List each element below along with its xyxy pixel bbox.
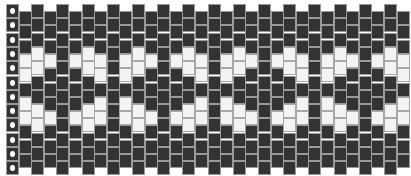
bead-dark bbox=[233, 76, 246, 90]
bead-dark bbox=[56, 118, 69, 132]
bead-dark bbox=[220, 83, 233, 97]
bead-dark bbox=[195, 154, 208, 168]
bead-dark bbox=[233, 4, 246, 18]
bead-dark bbox=[44, 140, 57, 154]
bead-dark bbox=[384, 147, 397, 161]
bead-light bbox=[334, 118, 347, 132]
bead-light bbox=[145, 54, 158, 68]
row-marker-dot bbox=[6, 4, 19, 18]
bead-dark bbox=[157, 61, 170, 75]
bead-dark bbox=[208, 133, 221, 147]
bead-pattern-grid bbox=[0, 0, 411, 176]
bead-dark bbox=[132, 90, 145, 104]
bead-dark bbox=[371, 25, 384, 39]
bead-dark bbox=[69, 125, 82, 139]
bead-dark bbox=[182, 133, 195, 147]
bead-dark bbox=[397, 154, 410, 168]
bead-dark bbox=[220, 140, 233, 154]
bead-dark bbox=[69, 25, 82, 39]
bead-dark bbox=[321, 25, 334, 39]
bead-dark bbox=[258, 118, 271, 132]
bead-light bbox=[132, 104, 145, 118]
bead-dark bbox=[182, 90, 195, 104]
bead-dark bbox=[346, 11, 359, 25]
bead-dark bbox=[31, 76, 44, 90]
row-marker-dot bbox=[6, 161, 19, 175]
bead-dark bbox=[132, 161, 145, 175]
bead-dark bbox=[283, 90, 296, 104]
bead-dark bbox=[157, 147, 170, 161]
bead-dark bbox=[182, 18, 195, 32]
bead-dark bbox=[107, 76, 120, 90]
bead-dark bbox=[334, 133, 347, 147]
bead-dark bbox=[107, 18, 120, 32]
bead-dark bbox=[220, 11, 233, 25]
bead-dark bbox=[346, 25, 359, 39]
bead-light bbox=[119, 54, 132, 68]
bead-dark bbox=[233, 161, 246, 175]
bead-dark bbox=[157, 161, 170, 175]
bead-dark bbox=[308, 133, 321, 147]
bead-dark bbox=[346, 154, 359, 168]
bead-dark bbox=[271, 140, 284, 154]
bead-dark bbox=[157, 133, 170, 147]
bead-dark bbox=[170, 97, 183, 111]
row-marker-dot bbox=[6, 90, 19, 104]
bead-dark bbox=[31, 33, 44, 47]
bead-dark bbox=[145, 11, 158, 25]
bead-dark bbox=[56, 18, 69, 32]
bead-dark bbox=[346, 40, 359, 54]
bead-dark bbox=[56, 161, 69, 175]
bead-dark bbox=[359, 90, 372, 104]
bead-dark bbox=[182, 147, 195, 161]
bead-light bbox=[19, 111, 32, 125]
bead-dark bbox=[56, 4, 69, 18]
bead-dark bbox=[220, 125, 233, 139]
bead-dark bbox=[94, 154, 107, 168]
bead-dark bbox=[56, 33, 69, 47]
row-marker-dot bbox=[6, 33, 19, 47]
bead-dark bbox=[94, 140, 107, 154]
bead-dark bbox=[170, 11, 183, 25]
bead-dark bbox=[359, 61, 372, 75]
bead-dark bbox=[258, 47, 271, 61]
bead-dark bbox=[195, 25, 208, 39]
row-marker-dot bbox=[6, 76, 19, 90]
bead-dark bbox=[145, 83, 158, 97]
bead-dark bbox=[19, 125, 32, 139]
bead-light bbox=[170, 111, 183, 125]
bead-light bbox=[69, 54, 82, 68]
bead-light bbox=[82, 118, 95, 132]
bead-dark bbox=[107, 90, 120, 104]
bead-dark bbox=[321, 125, 334, 139]
bead-dark bbox=[107, 161, 120, 175]
bead-dark bbox=[233, 133, 246, 147]
bead-dark bbox=[195, 140, 208, 154]
bead-dark bbox=[258, 133, 271, 147]
bead-light bbox=[19, 54, 32, 68]
bead-dark bbox=[271, 11, 284, 25]
bead-dark bbox=[82, 90, 95, 104]
bead-light bbox=[195, 111, 208, 125]
bead-dark bbox=[208, 4, 221, 18]
bead-dark bbox=[384, 133, 397, 147]
bead-dark bbox=[182, 76, 195, 90]
bead-dark bbox=[308, 76, 321, 90]
bead-dark bbox=[321, 154, 334, 168]
bead-dark bbox=[157, 18, 170, 32]
bead-dark bbox=[44, 154, 57, 168]
bead-dark bbox=[145, 25, 158, 39]
bead-dark bbox=[145, 140, 158, 154]
bead-dark bbox=[283, 4, 296, 18]
bead-dark bbox=[107, 4, 120, 18]
bead-dark bbox=[258, 4, 271, 18]
bead-dark bbox=[258, 33, 271, 47]
bead-dark bbox=[397, 11, 410, 25]
bead-dark bbox=[359, 161, 372, 175]
bead-dark bbox=[195, 11, 208, 25]
bead-light bbox=[233, 118, 246, 132]
bead-light bbox=[31, 118, 44, 132]
bead-dark bbox=[44, 97, 57, 111]
bead-dark bbox=[308, 47, 321, 61]
bead-dark bbox=[271, 40, 284, 54]
